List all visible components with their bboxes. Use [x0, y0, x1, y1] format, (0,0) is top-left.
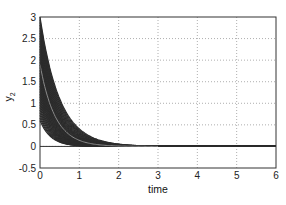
x-tick-label: 1: [77, 170, 83, 181]
y-tick-label: 2: [30, 55, 36, 66]
y-tick-label: 1: [30, 98, 36, 109]
x-tick-label: 5: [234, 170, 240, 181]
x-tick-label: 6: [273, 170, 279, 181]
x-axis-label: time: [148, 183, 168, 195]
line-chart: 0123456-0.500.511.522.53 time y2: [0, 0, 286, 205]
x-tick-label: 0: [37, 170, 43, 181]
y-tick-label: 0: [30, 141, 36, 152]
svg-text:y2: y2: [2, 92, 16, 101]
y-axis-label: y2: [2, 92, 16, 101]
y-tick-label: 0.5: [22, 119, 36, 130]
x-tick-label: 4: [195, 170, 201, 181]
x-tick-label: 2: [116, 170, 122, 181]
y-tick-label: -0.5: [19, 163, 37, 174]
y-tick-label: 1.5: [22, 76, 36, 87]
x-tick-label: 3: [155, 170, 161, 181]
y-tick-label: 2.5: [22, 33, 36, 44]
y-tick-label: 3: [30, 12, 36, 23]
